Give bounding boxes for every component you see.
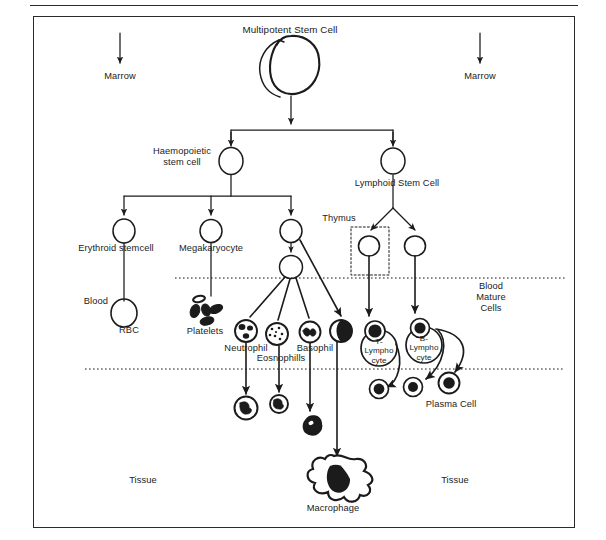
pre-b-cell-glyph <box>405 236 426 256</box>
granulocyte-progenitor-glyph <box>280 256 303 279</box>
label-t-lymphocyte: T- Lympho cyte <box>365 337 394 365</box>
label-thymus: Thymus <box>322 213 356 224</box>
monocyte-glyph <box>330 320 352 342</box>
edge-split-haemopoietic-lymphoid <box>231 130 393 146</box>
macrophage-glyph <box>308 455 373 502</box>
plasma-cell-glyph <box>439 373 460 394</box>
label-eosinophil: Eosnophills <box>257 353 306 364</box>
t-effector-cell-glyph <box>370 380 389 399</box>
platelets-glyph <box>188 295 224 327</box>
rbc-glyph <box>111 299 137 327</box>
lymphoid-stem-cell-glyph <box>381 148 405 174</box>
basophil-glyph <box>300 322 321 343</box>
label-b-lymphocyte: B- Lympho cyte <box>410 334 439 362</box>
thymus-box <box>351 227 389 275</box>
neutrophil-glyph <box>235 320 257 342</box>
label-blood-rbc: Blood <box>84 296 108 307</box>
label-multipotent-stem-cell: Multipotent Stem Cell <box>242 24 337 35</box>
haematopoiesis-diagram <box>0 0 606 540</box>
tissue-eosinophil-glyph <box>270 395 288 413</box>
label-tissue-right: Tissue <box>441 475 469 486</box>
figure-canvas: Multipotent Stem Cell Marrow Marrow Haem… <box>0 0 606 540</box>
label-lymphoid-stem-cell: Lymphoid Stem Cell <box>355 178 440 189</box>
label-marrow-right: Marrow <box>464 71 496 82</box>
label-plasma-cell: Plasma Cell <box>426 399 477 410</box>
megakaryocyte-glyph <box>200 220 222 243</box>
eosinophil-glyph <box>266 323 288 345</box>
tissue-neutrophil-glyph <box>235 397 258 420</box>
label-blood-mature-cells: Blood Mature Cells <box>476 281 506 315</box>
label-platelets: Platelets <box>187 326 224 337</box>
tissue-basophil-glyph <box>304 416 322 435</box>
label-marrow-left: Marrow <box>104 71 136 82</box>
myeloid-progenitor-glyph <box>280 220 302 243</box>
erythroid-stemcell-glyph <box>113 219 135 243</box>
b-memory-cell-glyph <box>404 378 423 397</box>
label-macrophage: Macrophage <box>307 503 360 514</box>
label-basophil: Basophil <box>297 343 333 354</box>
haemopoietic-stem-cell-glyph <box>219 148 243 175</box>
label-erythroid-stemcell: Erythroid stemcell <box>78 243 154 254</box>
label-rbc: RBC <box>119 325 139 336</box>
edge-granulo-branches <box>250 277 309 320</box>
multipotent-stem-cell-glyph <box>260 36 320 97</box>
edge-haemopoietic-branches <box>124 175 291 215</box>
label-megakaryocyte: Megakaryocyte <box>179 243 243 254</box>
thymocyte-glyph <box>359 236 380 256</box>
label-tissue-left: Tissue <box>129 475 157 486</box>
label-haemopoietic-stem-cell: Haemopoietic stem cell <box>153 146 211 168</box>
